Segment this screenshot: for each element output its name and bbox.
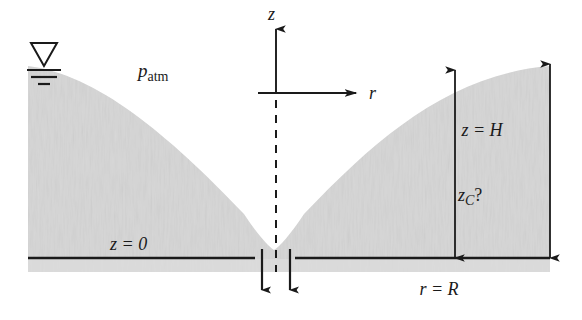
- zc-question-mark: ?: [474, 185, 482, 205]
- r-R-label: r = R: [419, 279, 458, 299]
- zc-symbol: z: [457, 185, 465, 205]
- free-surface-symbol: [27, 43, 61, 84]
- diagram-canvas: patm z r z = 0 zC?: [0, 0, 582, 320]
- free-surface-triangle-icon: [31, 43, 57, 66]
- fluid-shaded-area: [28, 66, 550, 272]
- p-atm-subscript: atm: [148, 69, 169, 84]
- fluid-mechanics-diagram: patm z r z = 0 zC?: [0, 0, 582, 320]
- z-axis-label: z: [267, 4, 275, 24]
- r-axis-label: r: [369, 83, 377, 103]
- zh-label: z = H: [460, 120, 503, 140]
- coordinate-axes: z r: [258, 4, 377, 103]
- p-atm-symbol: p: [136, 60, 148, 81]
- z-zero-label: z = 0: [109, 234, 147, 254]
- fluid-region: [28, 66, 550, 272]
- p-atm-label: patm: [136, 60, 169, 84]
